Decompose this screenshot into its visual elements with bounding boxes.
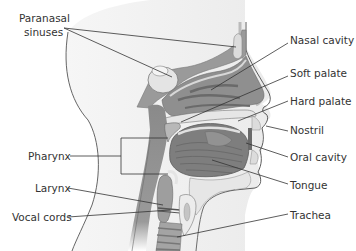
tongue bbox=[170, 124, 249, 177]
label-hard-palate: Hard palate bbox=[290, 95, 352, 107]
label-paranasal-line2: sinuses bbox=[24, 26, 63, 38]
label-vocal-cords: Vocal cords bbox=[12, 211, 72, 223]
label-nostril: Nostril bbox=[290, 124, 324, 136]
label-paranasal-line1: Paranasal bbox=[19, 12, 70, 24]
frontal-sinus bbox=[233, 34, 242, 59]
label-nasal-cavity: Nasal cavity bbox=[290, 34, 354, 46]
label-soft-palate: Soft palate bbox=[290, 67, 347, 79]
label-larynx: Larynx bbox=[35, 182, 71, 194]
label-oral-cavity: Oral cavity bbox=[290, 151, 347, 163]
anatomy-diagram: Paranasal sinuses Nasal cavity Soft pala… bbox=[0, 0, 356, 251]
label-tongue: Tongue bbox=[289, 179, 328, 191]
label-pharynx: Pharynx bbox=[28, 150, 71, 162]
label-trachea: Trachea bbox=[289, 209, 331, 221]
